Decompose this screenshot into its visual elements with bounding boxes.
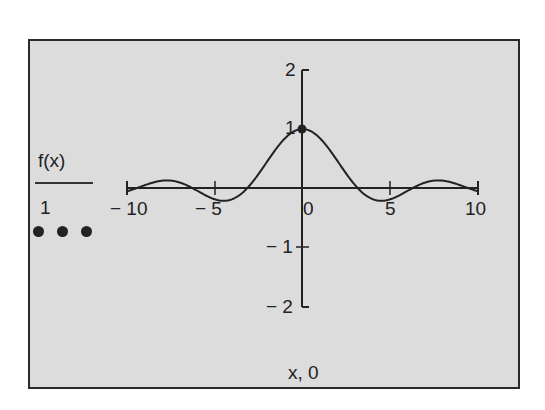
plot-canvas (0, 0, 545, 410)
dot-icon (57, 226, 68, 237)
legend-placeholder-dots[interactable] (33, 223, 105, 241)
x-tick-label: 0 (303, 198, 314, 220)
dot-icon (81, 226, 92, 237)
peak-marker (298, 125, 307, 134)
dot-icon (33, 226, 44, 237)
y-tick-label: − 2 (266, 296, 293, 318)
x-axis-title[interactable]: x, 0 (288, 362, 319, 384)
x-tick-label: − 5 (195, 198, 222, 220)
x-tick-label: 5 (385, 198, 396, 220)
x-tick-label: − 10 (110, 198, 148, 220)
y-tick-label: 1 (285, 117, 296, 139)
y-tick-label: − 1 (266, 236, 293, 258)
y-tick-label: 2 (285, 59, 296, 81)
x-tick-label: 10 (465, 198, 486, 220)
legend-weight[interactable]: 1 (40, 197, 51, 219)
legend-expression[interactable]: f(x) (38, 150, 65, 172)
legend-trace-line (35, 182, 93, 184)
